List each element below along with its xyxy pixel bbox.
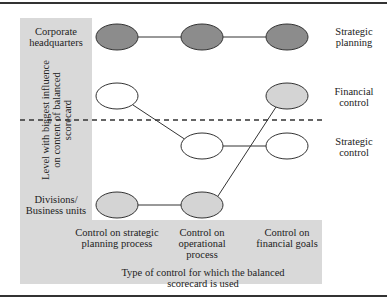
node-divisions-operational	[181, 192, 223, 218]
level-axis-title: Level with biggest influence on content …	[40, 55, 73, 185]
label-financial-control: Financial control	[326, 86, 382, 108]
node-financial-control-financial	[266, 83, 308, 109]
label-strategic-control: Strategic control	[326, 136, 382, 158]
column-label-strategic-planning-process: Control on strategic planning process	[72, 227, 162, 249]
node-strategic-control-operational	[181, 133, 223, 159]
node-divisions-planning	[96, 192, 138, 218]
control-type-axis-title: Type of control for which the balanced s…	[108, 267, 298, 289]
label-strategic-planning: Strategic planning	[326, 26, 382, 48]
column-label-financial-goals: Control on financial goals	[252, 227, 322, 249]
node-strategic-control-planning	[96, 83, 138, 109]
row-label-divisions: Divisions/ Business units	[20, 194, 92, 216]
node-strategic-control-financial	[266, 133, 308, 159]
strategic-control-connector-1	[133, 105, 186, 140]
column-label-operational-process: Control on operational process	[163, 227, 241, 260]
node-hq-financial	[266, 24, 308, 50]
node-hq-operational	[181, 24, 223, 50]
row-label-corporate-hq: Corporate headquarters	[20, 26, 92, 48]
node-hq-strategic-planning	[96, 24, 138, 50]
